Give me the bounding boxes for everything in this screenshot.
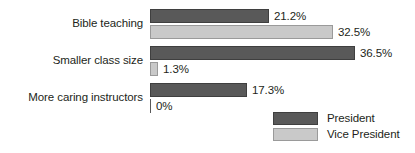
bar-vice-president-1 [150,62,158,76]
legend-swatch-president [273,112,318,125]
bar-vice-president-2 [150,99,151,113]
bar-value-president-1: 36.5% [360,46,392,60]
legend-label-president: President [327,112,375,125]
bar-value-vice-president-1: 1.3% [163,62,189,76]
legend-swatch-vice-president [273,128,318,141]
category-label-0: Bible teaching [0,17,143,30]
bar-vice-president-0 [150,25,333,39]
bar-value-vice-president-2: 0% [156,99,172,113]
bar-value-president-2: 17.3% [252,83,284,97]
bar-value-president-0: 21.2% [274,9,306,23]
bar-president-1 [150,46,355,60]
bar-chart: Bible teaching 21.2% 32.5% Smaller class… [0,0,415,153]
category-label-1: Smaller class size [0,54,143,67]
legend-label-vice-president: Vice President [327,128,400,141]
category-label-2: More caring instructors [0,91,143,104]
bar-value-vice-president-0: 32.5% [338,25,370,39]
bar-president-2 [150,83,247,97]
bar-president-0 [150,9,269,23]
